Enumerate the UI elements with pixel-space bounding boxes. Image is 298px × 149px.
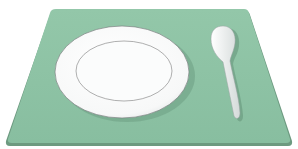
plate-well: [76, 41, 172, 101]
table-setting-illustration: [0, 0, 298, 149]
